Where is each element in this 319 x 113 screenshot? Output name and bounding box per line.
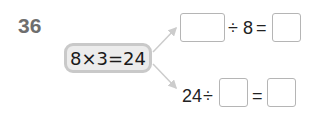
divide-sign-1: ÷ <box>228 18 238 38</box>
divide-sign-2: ÷ <box>203 86 213 106</box>
given-equation: 8×3=24 <box>64 43 152 73</box>
blank-divisor-2[interactable] <box>219 78 248 107</box>
blank-dividend-1[interactable] <box>180 13 225 42</box>
equals-sign-1: = <box>256 18 267 38</box>
dividend-2: 24 <box>182 86 202 106</box>
blank-answer-1[interactable] <box>272 13 301 42</box>
blank-answer-2[interactable] <box>267 78 296 107</box>
divisor-1: 8 <box>243 18 253 38</box>
equals-sign-2: = <box>252 86 263 106</box>
